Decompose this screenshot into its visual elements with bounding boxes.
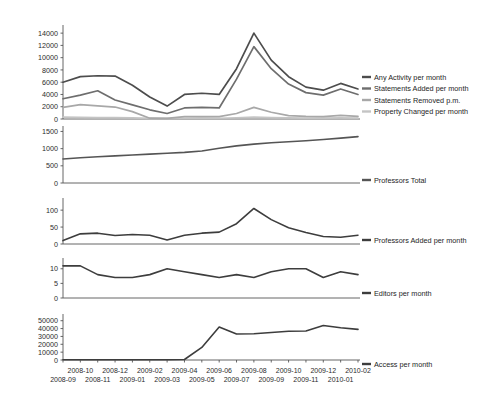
y-tick-label: 8000 — [42, 66, 58, 75]
series-line-editors-per-month — [63, 266, 358, 278]
panel-access: 01000020000300004000050000 — [38, 314, 360, 365]
y-tick-label: 50 — [50, 223, 58, 232]
y-tick-label: 10000 — [38, 348, 58, 357]
x-tick-label: 2008-09 — [50, 376, 76, 383]
x-tick-label: 2009-06 — [206, 367, 232, 374]
chart-figure: 0200040006000800010000120001400005001000… — [0, 0, 501, 412]
y-tick-label: 6000 — [42, 78, 58, 87]
y-tick-label: 0 — [54, 115, 58, 124]
legend-label-professors-added-per-month: Professors Added per month — [374, 236, 466, 245]
y-tick-label: 500 — [46, 161, 58, 170]
series-line-access-per-month — [63, 325, 358, 359]
y-tick-label: 12000 — [38, 41, 58, 50]
series-line-professors-total — [63, 137, 358, 159]
x-tick-label: 2008-12 — [102, 367, 128, 374]
multi-panel-line-chart: 0200040006000800010000120001400005001000… — [0, 0, 501, 412]
y-tick-label: 0 — [54, 240, 58, 249]
x-tick-label: 2009-04 — [172, 367, 198, 374]
x-tick-label: 2009-11 — [293, 376, 318, 383]
panel-professors-added: 050100 — [46, 198, 360, 249]
y-tick-label: 14000 — [38, 29, 58, 38]
x-tick-label: 2010-01 — [328, 376, 354, 383]
series-line-professors-added-per-month — [63, 208, 358, 240]
legend-label-statements-added-per-month: Statements Added per month — [374, 84, 469, 93]
x-tick-label: 2009-09 — [258, 376, 284, 383]
legend-label-property-changed-per-month: Property Changed per month — [374, 107, 468, 116]
legend-label-statements-removed-p-m: Statements Removed p.m. — [374, 96, 460, 105]
y-tick-label: 0 — [54, 356, 58, 365]
series-line-statements-added-per-month — [63, 47, 358, 114]
x-tick-label: 2009-08 — [241, 367, 267, 374]
x-tick-label: 2009-01 — [120, 376, 146, 383]
panel-activity: 02000400060008000100001200014000 — [38, 25, 360, 124]
y-tick-label: 50000 — [38, 316, 58, 325]
x-tick-label: 2009-12 — [310, 367, 336, 374]
legend-label-any-activity-per-month: Any Activity per month — [374, 73, 446, 82]
legend-label-professors-total: Professors Total — [374, 176, 427, 185]
x-tick-label: 2009-10 — [276, 367, 302, 374]
y-tick-label: 2000 — [42, 102, 58, 111]
panel-professors-total: 050010001500 — [42, 126, 360, 188]
series-line-statements-removed-p-m — [63, 105, 358, 119]
x-tick-label: 2009-02 — [137, 367, 163, 374]
y-tick-label: 1500 — [42, 127, 58, 136]
y-tick-label: 10 — [50, 264, 58, 273]
y-tick-label: 100 — [46, 206, 58, 215]
y-tick-label: 30000 — [38, 332, 58, 341]
x-tick-label: 2010-02 — [345, 367, 371, 374]
x-tick-label: 2008-10 — [68, 367, 94, 374]
legend-label-access-per-month: Access per month — [374, 360, 432, 369]
panel-editors: 0510 — [50, 258, 360, 303]
y-tick-label: 0 — [54, 179, 58, 188]
y-tick-label: 40000 — [38, 324, 58, 333]
y-tick-label: 1000 — [42, 144, 58, 153]
y-tick-label: 4000 — [42, 90, 58, 99]
x-tick-label: 2008-11 — [85, 376, 110, 383]
legend-label-editors-per-month: Editors per month — [374, 289, 432, 298]
x-tick-label: 2009-07 — [224, 376, 250, 383]
y-tick-label: 0 — [54, 294, 58, 303]
y-tick-label: 5 — [54, 279, 58, 288]
y-tick-label: 20000 — [38, 340, 58, 349]
x-tick-label: 2009-03 — [154, 376, 180, 383]
y-tick-label: 10000 — [38, 53, 58, 62]
x-tick-label: 2009-05 — [189, 376, 215, 383]
